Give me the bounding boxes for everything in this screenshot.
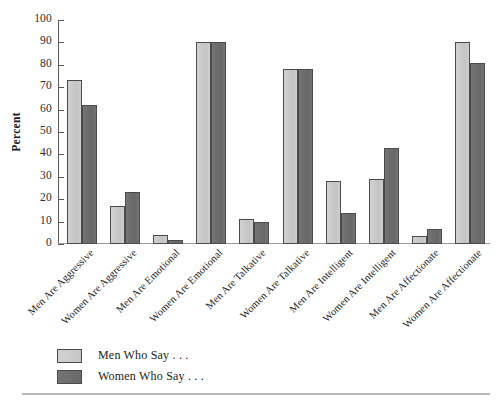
- bar: [298, 69, 313, 244]
- x-axis-category-label: Women Are Intelligent: [321, 247, 398, 324]
- bar: [412, 236, 427, 244]
- legend-item-women: Women Who Say . . .: [57, 366, 204, 387]
- y-axis-tick: [58, 110, 64, 111]
- x-axis-category-label: Women Are Emotional: [148, 247, 225, 324]
- bar: [384, 148, 399, 244]
- bar: [110, 206, 125, 244]
- bar-group: [369, 20, 399, 244]
- y-axis-tick: [58, 42, 64, 43]
- chart-legend: Men Who Say . . . Women Who Say . . .: [57, 345, 204, 387]
- x-axis-category-label: Women Are Affectionate: [401, 247, 484, 330]
- bar: [211, 42, 226, 244]
- bar: [427, 229, 442, 244]
- y-axis-tick-label: 30: [12, 170, 52, 182]
- legend-swatch-women-icon: [57, 370, 82, 384]
- bar-group: [412, 20, 442, 244]
- bar: [153, 235, 168, 244]
- y-axis-tick: [58, 177, 64, 178]
- bar: [341, 213, 356, 244]
- bar-group: [455, 20, 485, 244]
- bar: [168, 240, 183, 244]
- y-axis-tick: [58, 244, 64, 245]
- x-axis-category-label: Women Are Aggressive: [59, 247, 139, 327]
- y-axis-tick-label: 100: [12, 13, 52, 25]
- y-axis-tick-label: 60: [12, 103, 52, 115]
- y-axis-tick: [58, 132, 64, 133]
- bar: [125, 192, 140, 244]
- y-axis-tick-label: 0: [12, 237, 52, 249]
- bar: [82, 105, 97, 244]
- bar-group: [153, 20, 183, 244]
- bar: [470, 63, 485, 244]
- bottom-divider: [22, 393, 490, 395]
- bar: [239, 219, 254, 244]
- bar-group: [326, 20, 356, 244]
- bar: [326, 181, 341, 244]
- legend-swatch-men-icon: [57, 349, 82, 363]
- y-axis-tick-label: 70: [12, 80, 52, 92]
- y-axis-tick-label: 40: [12, 147, 52, 159]
- y-axis-tick: [58, 87, 64, 88]
- y-axis-tick-label: 80: [12, 58, 52, 70]
- bar-chart-figure: Percent 0102030405060708090100 Men Are A…: [0, 0, 504, 406]
- y-axis-tick: [58, 154, 64, 155]
- bar-group: [283, 20, 313, 244]
- y-axis-tick: [58, 20, 64, 21]
- bar: [455, 42, 470, 244]
- legend-item-men: Men Who Say . . .: [57, 345, 204, 366]
- legend-label-women: Women Who Say . . .: [98, 369, 204, 384]
- bar: [369, 179, 384, 244]
- y-axis-tick: [58, 199, 64, 200]
- bar-group: [67, 20, 97, 244]
- y-axis-tick: [58, 222, 64, 223]
- y-axis-tick: [58, 65, 64, 66]
- y-axis-tick-label: 50: [12, 125, 52, 137]
- bar-group: [110, 20, 140, 244]
- legend-label-men: Men Who Say . . .: [98, 348, 189, 363]
- y-axis-tick-label: 90: [12, 35, 52, 47]
- y-axis-tick-label: 20: [12, 192, 52, 204]
- bar: [283, 69, 298, 244]
- bar-group: [196, 20, 226, 244]
- bar: [196, 42, 211, 244]
- bar: [67, 80, 82, 244]
- y-axis-tick-label: 10: [12, 215, 52, 227]
- bar: [254, 222, 269, 244]
- bar-group: [239, 20, 269, 244]
